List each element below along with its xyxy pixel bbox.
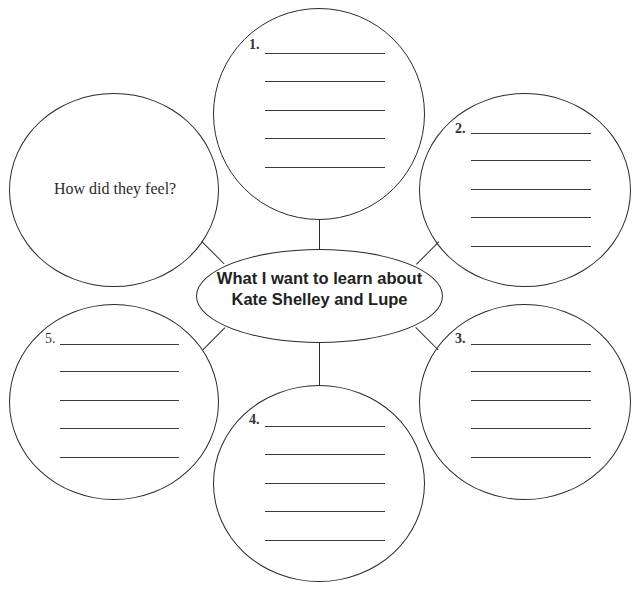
circle-3 — [419, 304, 631, 500]
circle-5 — [9, 304, 219, 500]
circle-5-line-2[interactable] — [60, 371, 179, 372]
circle-1-line-1[interactable] — [265, 53, 385, 54]
circle-3-line-4[interactable] — [471, 428, 591, 429]
circle-2-line-2[interactable] — [471, 160, 591, 161]
circle-prompt-text: How did they feel? — [54, 180, 176, 198]
circle-4-number: 4. — [249, 412, 260, 428]
circle-1-line-5[interactable] — [265, 167, 385, 168]
circle-4-line-1[interactable] — [265, 426, 385, 427]
connector-bottom-right — [415, 327, 439, 351]
circle-5-line-3[interactable] — [60, 400, 179, 401]
connector-top-left — [201, 241, 225, 265]
circle-1-number: 1. — [249, 37, 260, 53]
circle-4-line-3[interactable] — [265, 483, 385, 484]
center-title: What I want to learn about Kate Shelley … — [196, 268, 443, 310]
concept-web: What I want to learn about Kate Shelley … — [0, 0, 639, 592]
circle-2-line-3[interactable] — [471, 189, 591, 190]
circle-3-line-5[interactable] — [471, 457, 591, 458]
circle-1-line-2[interactable] — [265, 81, 385, 82]
connector-top-right — [416, 241, 440, 265]
circle-1 — [213, 8, 425, 220]
circle-5-line-5[interactable] — [60, 457, 179, 458]
circle-4-line-5[interactable] — [265, 540, 385, 541]
connector-bottom — [319, 343, 320, 385]
circle-3-line-2[interactable] — [471, 371, 591, 372]
circle-3-line-3[interactable] — [471, 400, 591, 401]
circle-1-line-3[interactable] — [265, 110, 385, 111]
circle-2-line-5[interactable] — [471, 246, 591, 247]
circle-4-line-2[interactable] — [265, 454, 385, 455]
circle-1-line-4[interactable] — [265, 138, 385, 139]
center-title-line-1: What I want to learn about — [196, 268, 443, 289]
circle-5-line-1[interactable] — [60, 344, 179, 345]
circle-2-number: 2. — [455, 121, 466, 137]
center-title-line-2: Kate Shelley and Lupe — [196, 289, 443, 310]
circle-4-line-4[interactable] — [265, 511, 385, 512]
circle-3-number: 3. — [455, 331, 466, 347]
circle-5-line-4[interactable] — [60, 428, 179, 429]
connector-top — [319, 220, 320, 249]
circle-2-line-4[interactable] — [471, 217, 591, 218]
circle-3-line-1[interactable] — [471, 344, 591, 345]
circle-2-line-1[interactable] — [471, 133, 591, 134]
connector-bottom-left — [202, 327, 226, 351]
circle-5-number: 5. — [45, 331, 56, 347]
